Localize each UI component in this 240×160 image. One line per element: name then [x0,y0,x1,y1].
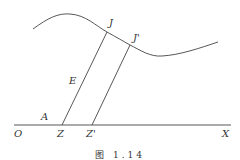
curve [33,14,218,56]
segment-z-prime-j-prime [92,45,130,125]
figure-canvas: O A Z Z' X E J J' [0,0,240,160]
label-j: J [107,17,114,28]
label-x: X [221,128,230,139]
figure-caption: 图 1.14 [0,148,240,160]
label-z-prime: Z' [85,128,96,139]
label-o: O [14,128,22,139]
label-a: A [40,111,48,122]
label-z: Z [56,128,65,139]
label-j-prime: J' [131,32,140,43]
geometry-figure: O A Z Z' X E J J' 图 1.14 [0,0,240,160]
label-e: E [68,75,77,86]
